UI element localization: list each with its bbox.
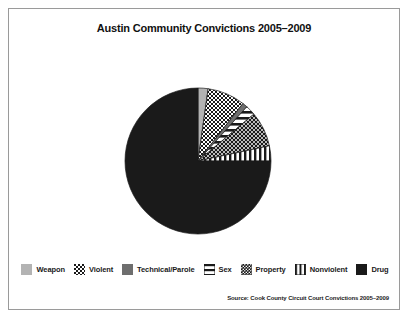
legend-item-property[interactable]: Property [241, 264, 286, 275]
legend-swatch-drug-icon [356, 264, 367, 275]
legend-swatch-sex-icon [204, 264, 215, 275]
legend-label-drug: Drug [371, 265, 388, 274]
chart-figure-frame: Austin Community Convictions 2005–2009 [8, 8, 400, 310]
legend-label-nonviolent: Nonviolent [310, 265, 348, 274]
legend-label-violent: Violent [89, 265, 113, 274]
legend-swatch-property-icon [241, 264, 252, 275]
legend-label-sex: Sex [219, 265, 232, 274]
pie-chart [9, 45, 401, 253]
legend-item-nonviolent[interactable]: Nonviolent [295, 264, 348, 275]
pie-chart-plot-area [9, 45, 401, 253]
chart-title: Austin Community Convictions 2005–2009 [9, 22, 399, 34]
legend-item-drug[interactable]: Drug [356, 264, 388, 275]
legend-label-weapon: Weapon [36, 265, 64, 274]
legend-item-violent[interactable]: Violent [74, 264, 113, 275]
legend-swatch-violent-icon [74, 264, 85, 275]
source-note: Source: Cook County Circuit Court Convic… [227, 295, 389, 301]
legend-item-sex[interactable]: Sex [204, 264, 232, 275]
pie-slice-group [125, 88, 271, 234]
chart-legend: Weapon Violent Technical/Parole Sex [9, 259, 401, 279]
legend-swatch-weapon-icon [21, 264, 32, 275]
legend-swatch-technical-parole-icon [122, 264, 133, 275]
legend-item-technical-parole[interactable]: Technical/Parole [122, 264, 194, 275]
legend-item-weapon[interactable]: Weapon [21, 264, 64, 275]
legend-swatch-nonviolent-icon [295, 264, 306, 275]
legend-label-property: Property [256, 265, 286, 274]
legend-label-technical-parole: Technical/Parole [137, 265, 194, 274]
